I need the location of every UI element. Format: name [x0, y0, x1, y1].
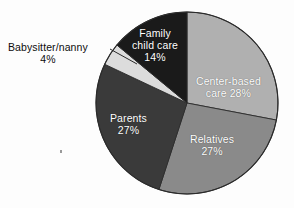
pie-label-babysitter-nanny-line1: Babysitter/nanny — [8, 41, 88, 53]
pie-slices — [96, 12, 278, 194]
pie-label-relatives-line1: Relatives — [190, 133, 234, 145]
pie-label-parents-line1: Parents — [110, 112, 147, 124]
pie-label-center-based-care-line1: Center-based — [196, 75, 261, 87]
pie-chart-figure: Center-based care 28% Relatives 27% Pare… — [0, 0, 294, 208]
pie-label-relatives-value: 27% — [190, 146, 234, 158]
pie-slice-center-based-care[interactable] — [187, 12, 278, 120]
pie-label-babysitter-nanny-value: 4% — [8, 54, 88, 66]
pie-label-center-based-care-line2: care 28% — [196, 88, 261, 100]
pie-label-family-child-care: Family child care 14% — [132, 28, 178, 63]
pie-label-parents-value: 27% — [110, 125, 147, 137]
pie-label-babysitter-nanny: Babysitter/nanny 4% — [8, 42, 88, 66]
pie-label-parents: Parents 27% — [110, 113, 147, 137]
pie-label-center-based-care: Center-based care 28% — [196, 76, 261, 100]
pie-label-relatives: Relatives 27% — [190, 134, 234, 158]
pie-label-family-child-care-line2: child care — [132, 40, 178, 52]
pie-label-family-child-care-value: 14% — [132, 52, 178, 64]
scan-speck — [60, 150, 62, 153]
pie-label-family-child-care-line1: Family — [139, 27, 171, 39]
